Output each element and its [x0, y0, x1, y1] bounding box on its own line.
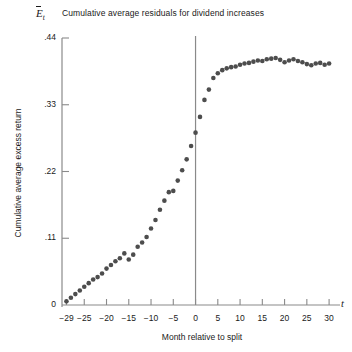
data-point: [153, 218, 158, 223]
data-point: [122, 251, 127, 256]
data-point: [313, 61, 318, 66]
data-point: [318, 61, 323, 66]
y-tick-label: .33: [30, 99, 56, 109]
data-point: [242, 61, 247, 66]
y-tick-label: .44: [30, 32, 56, 42]
data-point: [167, 190, 172, 195]
data-point: [282, 60, 287, 65]
data-point: [144, 235, 149, 240]
data-point: [309, 63, 314, 68]
data-point: [305, 62, 310, 67]
figure-container: Cumulative average residuals for dividen…: [0, 0, 352, 352]
data-points: [64, 56, 331, 304]
data-point: [207, 87, 212, 92]
data-point: [118, 256, 123, 261]
data-point: [269, 56, 274, 61]
data-point: [322, 62, 327, 67]
data-point: [104, 266, 109, 271]
data-point: [211, 76, 216, 81]
data-point: [100, 271, 105, 276]
data-point: [251, 59, 256, 64]
y-tick-label: 0: [30, 299, 56, 309]
plot-axes: [62, 38, 340, 307]
x-axis-title: Month relative to split: [62, 332, 342, 342]
data-point: [273, 56, 278, 61]
data-point: [264, 57, 269, 62]
data-point: [220, 68, 225, 73]
data-point: [260, 59, 265, 64]
data-point: [158, 207, 163, 212]
y-axis-title: Cumulative average excess return: [13, 73, 23, 273]
data-point: [291, 57, 296, 62]
data-point: [91, 277, 96, 282]
data-point: [86, 281, 91, 286]
data-point: [171, 189, 176, 194]
x-tick-label: 30: [316, 313, 342, 323]
data-point: [287, 58, 292, 63]
data-point: [184, 157, 189, 162]
data-point: [256, 58, 261, 63]
data-point: [198, 115, 203, 120]
data-point: [135, 244, 140, 249]
data-point: [78, 288, 83, 293]
data-point: [82, 285, 87, 290]
data-point: [238, 62, 243, 67]
data-point: [296, 59, 301, 64]
data-point: [233, 64, 238, 69]
data-point: [247, 61, 252, 66]
data-point: [113, 259, 118, 264]
data-point: [95, 275, 100, 280]
data-point: [224, 66, 229, 71]
data-point: [216, 71, 221, 76]
data-point: [175, 178, 180, 183]
data-point: [69, 295, 74, 300]
data-point: [109, 263, 114, 268]
data-point: [327, 61, 332, 66]
data-point: [149, 226, 154, 231]
y-tick-label: .11: [30, 232, 56, 242]
data-point: [300, 60, 305, 65]
data-point: [126, 257, 131, 262]
data-point: [162, 198, 167, 203]
data-point: [64, 299, 69, 304]
data-point: [73, 292, 78, 297]
data-point: [278, 58, 283, 63]
data-point: [229, 65, 234, 70]
data-point: [140, 240, 145, 245]
data-point: [180, 168, 185, 173]
data-point: [202, 98, 207, 103]
data-point: [131, 252, 136, 257]
data-point: [189, 144, 194, 149]
y-tick-label: .22: [30, 166, 56, 176]
data-point: [193, 130, 198, 135]
